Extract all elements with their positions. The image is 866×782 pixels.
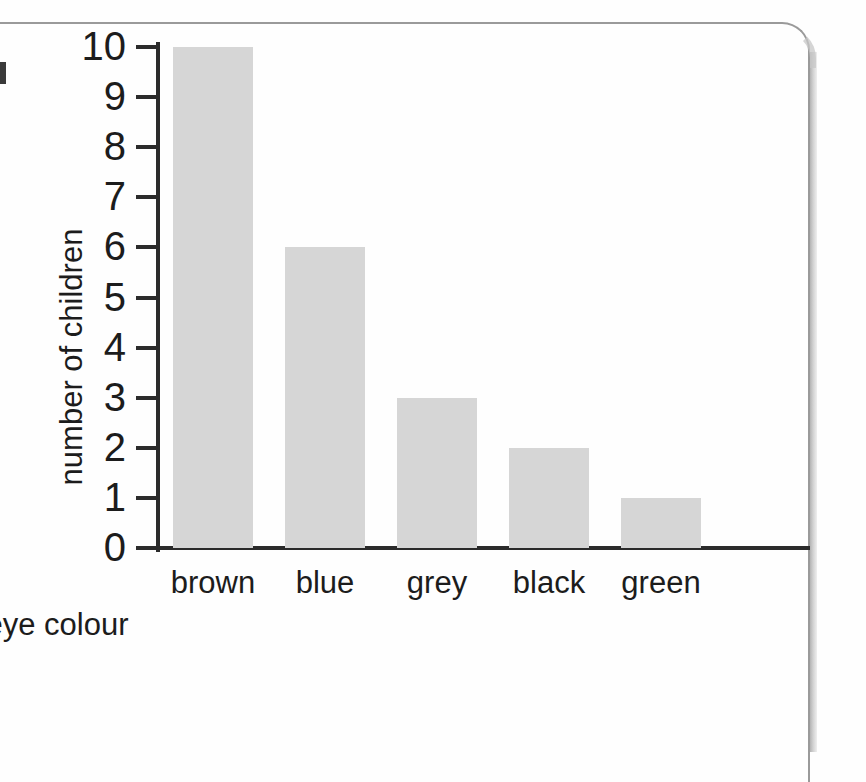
category-label-black: black bbox=[489, 566, 609, 600]
y-tick-label: 2 bbox=[104, 426, 126, 468]
bar-brown bbox=[173, 47, 253, 548]
y-tick-mark bbox=[136, 296, 158, 300]
y-axis-title-text: number of children bbox=[54, 229, 89, 486]
y-tick-mark bbox=[136, 446, 158, 450]
y-tick-mark bbox=[136, 346, 158, 350]
y-tick-mark bbox=[136, 396, 158, 400]
category-label-green: green bbox=[601, 566, 721, 600]
y-tick-mark bbox=[136, 95, 158, 99]
y-tick-label: 8 bbox=[104, 125, 126, 167]
y-tick-label: 9 bbox=[104, 75, 126, 117]
category-label-brown: brown bbox=[153, 566, 273, 600]
bar-black bbox=[509, 448, 589, 548]
bar-grey bbox=[397, 398, 477, 548]
category-label-grey: grey bbox=[377, 566, 497, 600]
x-axis-title: eye colour bbox=[0, 608, 866, 642]
y-tick-label: 7 bbox=[104, 175, 126, 217]
y-tick-label: 6 bbox=[104, 225, 126, 267]
y-tick-label: 3 bbox=[104, 376, 126, 418]
x-axis-title-text: eye colour bbox=[0, 607, 129, 642]
y-axis-title: number of children bbox=[55, 157, 89, 557]
y-tick-label: 1 bbox=[104, 476, 126, 518]
y-tick-mark bbox=[136, 195, 158, 199]
y-tick-mark bbox=[136, 145, 158, 149]
y-tick-label: 0 bbox=[104, 526, 126, 568]
y-tick-mark bbox=[136, 45, 158, 49]
y-tick-mark bbox=[136, 546, 158, 550]
y-tick-label: 4 bbox=[104, 326, 126, 368]
bar-series bbox=[158, 47, 810, 548]
category-label-blue: blue bbox=[265, 566, 385, 600]
bar-green bbox=[621, 498, 701, 548]
bar-blue bbox=[285, 247, 365, 548]
y-tick-mark bbox=[136, 245, 158, 249]
y-tick-label: 5 bbox=[104, 276, 126, 318]
y-tick-mark bbox=[136, 496, 158, 500]
y-tick-label: 10 bbox=[82, 25, 127, 67]
